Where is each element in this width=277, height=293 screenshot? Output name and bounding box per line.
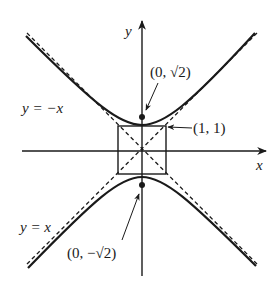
- hyperbola-diagram: y x (0, √2) (1, 1) y = −x y = x (0, −√2): [0, 0, 277, 293]
- pointer-bottom-vertex: [122, 194, 139, 240]
- pointer-top-vertex: [146, 83, 158, 110]
- x-axis-label: x: [255, 157, 263, 173]
- y-axis-label: y: [123, 23, 132, 39]
- label-asymptote-neg: y = −x: [20, 100, 63, 116]
- label-top-vertex: (0, √2): [150, 64, 191, 81]
- label-bottom-vertex: (0, −√2): [67, 245, 116, 262]
- pointer-corner: [168, 127, 192, 128]
- label-corner: (1, 1): [193, 120, 226, 137]
- point-bottom-vertex: [139, 182, 145, 188]
- label-asymptote-pos: y = x: [18, 219, 51, 235]
- point-top-vertex: [139, 114, 145, 120]
